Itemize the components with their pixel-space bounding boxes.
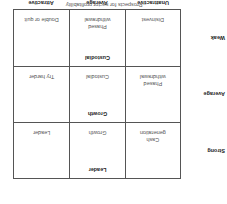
cell-strong-attractive: Leader — [14, 122, 69, 178]
cell-average-average: GrowthCustodial — [69, 66, 124, 122]
cell-strong-average: LeaderGrowth — [69, 122, 124, 178]
cell-weak-average: CustodialPhased withdrawal — [69, 10, 124, 66]
matrix-grid: Cash generation LeaderGrowth Leader Phas… — [13, 9, 181, 179]
row-label-weak: Weak — [211, 35, 225, 41]
x-axis-title: Prospects for sector profitability — [20, 2, 188, 8]
cell-average-attractive: Try harder — [14, 66, 69, 122]
policy-matrix-diagram: Company's competitive capability Strong … — [0, 0, 227, 204]
cell-average-unattractive: Phased withdrawal — [125, 66, 180, 122]
cell-weak-unattractive: Disinvest — [125, 10, 180, 66]
row-label-average: Average — [203, 91, 225, 97]
row-label-strong: Strong — [207, 148, 225, 154]
cell-weak-attractive: Double or quit — [14, 10, 69, 66]
cell-strong-unattractive: Cash generation — [125, 122, 180, 178]
